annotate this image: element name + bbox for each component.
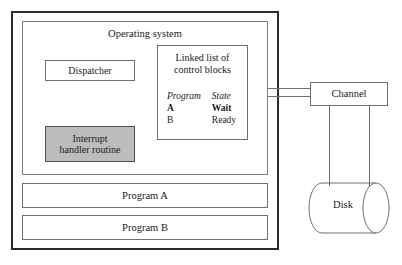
linked-list-title: Linked list of control blocks <box>158 52 247 76</box>
cell-state: Wait <box>210 103 243 115</box>
channel-box: Channel <box>310 82 388 106</box>
interrupt-handler-routine-box: Interrupt handler routine <box>45 126 135 162</box>
control-block-table-header-row: Program State <box>167 91 243 103</box>
channel-disk-connector-right <box>369 106 370 186</box>
cell-program: B <box>167 115 210 127</box>
interrupt-handler-label-line2: handler routine <box>60 144 121 155</box>
program-b-label: Program B <box>122 222 168 234</box>
channel-label: Channel <box>332 88 367 100</box>
cell-program: A <box>167 103 210 115</box>
linked-list-title-line1: Linked list of <box>176 52 230 63</box>
operating-system-title: Operating system <box>23 28 267 40</box>
disk-label: Disk <box>308 199 378 210</box>
column-header-state: State <box>210 91 243 103</box>
table-row: A Wait <box>167 103 243 115</box>
program-a-label: Program A <box>122 190 168 202</box>
table-row: B Ready <box>167 115 243 127</box>
column-header-program: Program <box>167 91 210 103</box>
channel-disk-connector-left <box>329 106 330 186</box>
program-a-box: Program A <box>22 183 268 208</box>
linked-list-title-line2: control blocks <box>174 64 231 75</box>
program-b-box: Program B <box>22 215 268 240</box>
cell-state: Ready <box>210 115 243 127</box>
interrupt-handler-label-line1: Interrupt <box>73 133 108 144</box>
os-channel-connector-bottom-line <box>268 96 311 97</box>
linked-list-control-blocks-box: Linked list of control blocks Program St… <box>157 45 248 140</box>
control-block-table: Program State A Wait B Ready <box>167 91 243 128</box>
os-channel-connector-top-line <box>268 88 311 89</box>
diagram-canvas: Operating system Dispatcher Interrupt ha… <box>0 0 402 265</box>
dispatcher-box: Dispatcher <box>45 60 135 81</box>
dispatcher-label: Dispatcher <box>68 65 111 76</box>
